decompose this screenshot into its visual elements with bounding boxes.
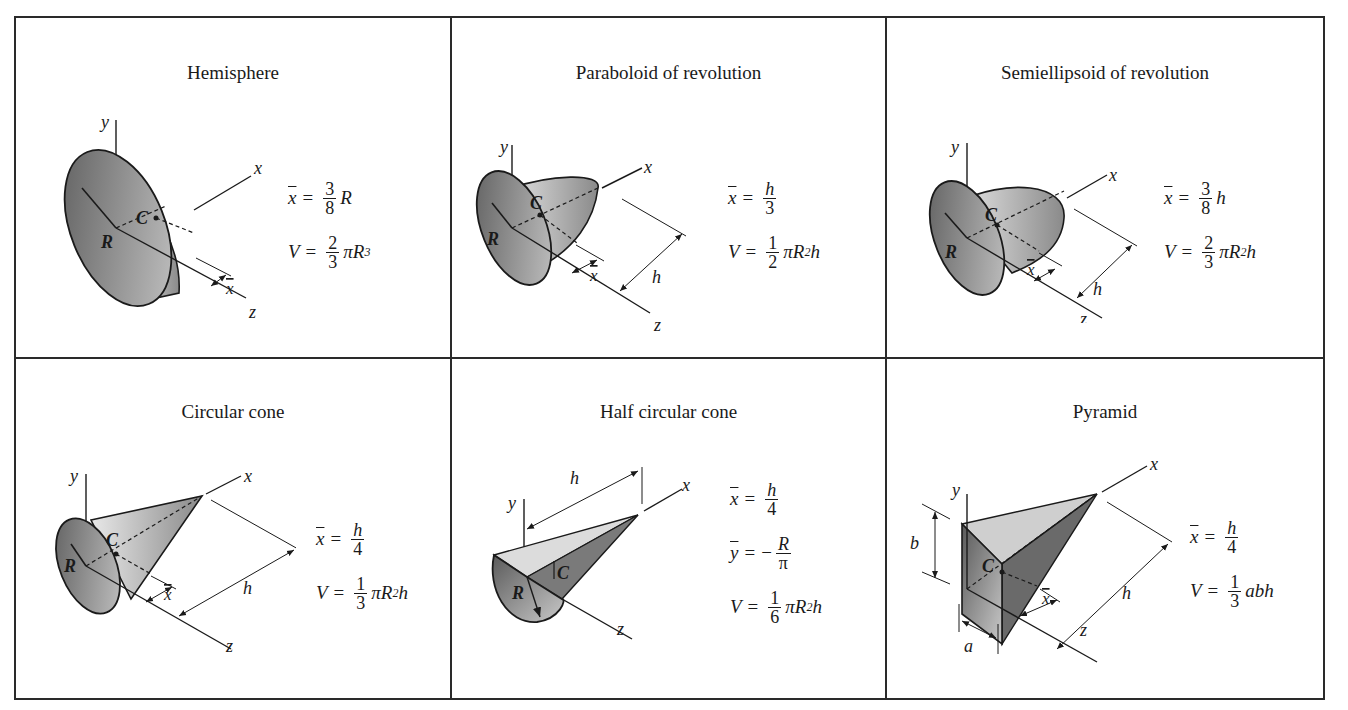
shape-title: Pyramid	[887, 401, 1323, 423]
svg-text:R: R	[511, 583, 524, 603]
y-axis-label: y	[99, 112, 109, 132]
radius-label: R	[100, 232, 113, 252]
formula-xbar: x=38h	[1164, 178, 1256, 218]
paraboloid-figure: y x z R C x h	[472, 133, 712, 333]
shape-title: Hemisphere	[16, 62, 450, 84]
svg-text:C: C	[106, 530, 119, 550]
svg-text:x: x	[589, 266, 598, 285]
formula-ybar: y=−Rπ	[730, 533, 822, 573]
semiellipsoid-figure: y x z R C x h	[927, 123, 1167, 323]
svg-text:x: x	[1026, 260, 1035, 279]
svg-text:R: R	[944, 242, 957, 262]
svg-text:z: z	[225, 636, 233, 654]
svg-text:C: C	[557, 563, 570, 583]
shape-title: Paraboloid of revolution	[452, 62, 885, 84]
svg-text:h: h	[652, 267, 661, 287]
svg-text:y: y	[498, 137, 508, 157]
svg-text:x: x	[1108, 165, 1117, 185]
formula-xbar: x=h4	[316, 519, 408, 559]
svg-text:y: y	[68, 466, 78, 486]
formula-volume: V=23πR3	[288, 232, 370, 272]
xbar-label: x	[225, 279, 234, 298]
svg-text:x: x	[163, 585, 172, 604]
formulas: x=38R V=23πR3	[288, 178, 370, 286]
svg-text:y: y	[950, 480, 960, 500]
svg-text:a: a	[964, 636, 973, 656]
formula-xbar: x=h4	[730, 479, 822, 519]
shape-title: Semiellipsoid of revolution	[887, 62, 1323, 84]
svg-text:h: h	[1093, 279, 1102, 299]
shape-title: Circular cone	[16, 401, 450, 423]
cell-half-circular-cone: Half circular cone y x z R C h x=h4 y=−R…	[452, 359, 885, 698]
svg-text:z: z	[1079, 309, 1087, 323]
formulas: x=h4 V=13abh	[1190, 517, 1274, 625]
svg-text:C: C	[982, 556, 995, 576]
svg-text:C: C	[530, 193, 543, 213]
formulas: x=h4 y=−Rπ V=16πR2h	[730, 479, 822, 641]
formula-xbar: x=38R	[288, 178, 370, 218]
svg-text:R: R	[63, 556, 76, 576]
formula-volume: V=13πR2h	[316, 573, 408, 613]
formula-volume: V=12πR2h	[728, 232, 820, 272]
svg-text:R: R	[486, 229, 499, 249]
formula-volume: V=23πR2h	[1164, 232, 1256, 272]
formulas: x=38h V=23πR2h	[1164, 178, 1256, 286]
svg-text:x: x	[643, 157, 652, 177]
formulas: x=h3 V=12πR2h	[728, 178, 820, 286]
half-circular-cone-figure: y x z R C h	[482, 459, 722, 649]
centroid-label: C	[136, 208, 149, 228]
formulas: x=h4 V=13πR2h	[316, 519, 408, 627]
svg-text:h: h	[570, 468, 579, 488]
svg-text:x: x	[1041, 589, 1050, 608]
cell-paraboloid: Paraboloid of revolution y x z R C x h x…	[452, 18, 885, 357]
pyramid-figure: y x z C x h b a	[902, 454, 1182, 664]
svg-text:z: z	[616, 619, 624, 639]
svg-text:x: x	[681, 475, 690, 495]
svg-text:C: C	[985, 205, 998, 225]
x-axis-label: x	[253, 158, 262, 178]
formula-xbar: x=h4	[1190, 517, 1274, 557]
formula-volume: V=16πR2h	[730, 587, 822, 627]
formula-volume: V=13abh	[1190, 571, 1274, 611]
svg-text:x: x	[1149, 454, 1158, 474]
svg-text:z: z	[653, 315, 661, 333]
svg-text:x: x	[243, 466, 252, 486]
svg-text:h: h	[1122, 583, 1131, 603]
cell-circular-cone: Circular cone y x z R C x h x=h4 V=13πR2…	[16, 359, 450, 698]
svg-text:y: y	[949, 137, 959, 157]
shape-title: Half circular cone	[452, 401, 885, 423]
svg-text:b: b	[910, 533, 919, 553]
svg-text:h: h	[243, 578, 252, 598]
formula-xbar: x=h3	[728, 178, 820, 218]
cell-pyramid: Pyramid y x z C x h b a x=h4 V=13abh	[887, 359, 1323, 698]
circular-cone-figure: y x z R C x h	[36, 454, 296, 654]
cell-semiellipsoid: Semiellipsoid of revolution y x z R C x …	[887, 18, 1323, 357]
cell-hemisphere: Hemisphere y x z R C x x=38R V=23πR3	[16, 18, 450, 357]
svg-text:z: z	[1079, 620, 1087, 640]
hemisphere-figure: y x z R C x	[46, 108, 286, 318]
z-axis-label: z	[248, 302, 256, 318]
svg-text:y: y	[506, 493, 516, 513]
